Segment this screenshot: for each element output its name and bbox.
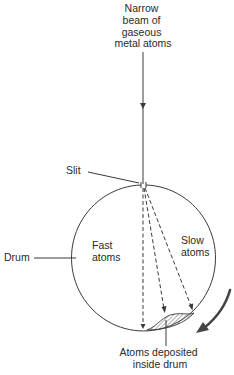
- fast-atoms-label: Fast atoms: [92, 239, 121, 263]
- rotation-arrow-icon: [196, 322, 209, 333]
- beam-label: Narrow beam of gaseous metal atoms: [114, 2, 171, 49]
- beam-arrow-icon: [140, 103, 146, 109]
- trajectory-slow-arrow-icon: [189, 304, 194, 311]
- slow-atoms-label: Slow atoms: [181, 234, 210, 258]
- trajectory-medium-arrow-icon: [162, 306, 167, 313]
- atom-deposit: [147, 313, 194, 330]
- trajectory-fast-arrow-icon: [141, 324, 146, 329]
- slit-leader-line: [88, 172, 139, 183]
- drum-label: Drum: [4, 251, 30, 263]
- slit-label: Slit: [66, 164, 81, 176]
- drum-experiment-diagram: Narrow beam of gaseous metal atoms Slit …: [0, 0, 234, 375]
- deposit-label: Atoms deposited inside drum: [119, 346, 200, 370]
- trajectory-medium: [144, 188, 164, 309]
- rotation-arrow-shaft: [204, 290, 230, 328]
